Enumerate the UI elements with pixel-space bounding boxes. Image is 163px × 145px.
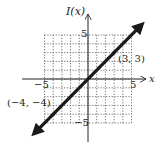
- point-3-3: [112, 51, 116, 55]
- x-min-tick-label: −5: [34, 79, 49, 90]
- function-graph: I(x) x −5 5 5 −5 (3, 3) (−4, −4): [0, 0, 163, 145]
- y-min-tick-label: −5: [74, 117, 89, 128]
- point-neg4-neg4: [51, 112, 55, 116]
- y-max-tick-label: 5: [81, 28, 87, 39]
- point-a-label: (3, 3): [118, 53, 145, 64]
- x-axis-label: x: [149, 73, 155, 84]
- y-axis-label: I(x): [65, 5, 85, 18]
- x-max-tick-label: 5: [130, 79, 136, 90]
- point-b-label: (−4, −4): [7, 97, 51, 108]
